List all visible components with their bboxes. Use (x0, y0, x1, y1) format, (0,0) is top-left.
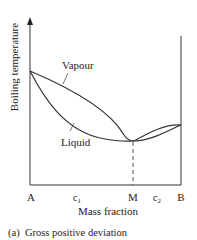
tick-label-c1: c1 (73, 192, 81, 205)
vapour-label: Vapour (62, 59, 94, 71)
vapour-leader-line (63, 73, 68, 84)
phase-diagram: Boiling temperature Vapour Liquid A c1 M… (0, 0, 197, 240)
liquid-label: Liquid (61, 136, 91, 148)
tick-label-c2-sub: 2 (157, 197, 161, 205)
tick-label-b: B (177, 191, 184, 203)
tick-label-a: A (27, 191, 35, 203)
tick-label-c2: c2 (153, 192, 161, 205)
x-axis-label: Mass fraction (78, 205, 139, 217)
y-axis-label: Boiling temperature (8, 23, 20, 111)
figure-caption: (a) Gross positive deviation (8, 227, 128, 239)
tick-label-m: M (128, 191, 138, 203)
y-axis-arrow-icon (27, 17, 33, 25)
tick-label-c1-sub: 1 (77, 197, 81, 205)
